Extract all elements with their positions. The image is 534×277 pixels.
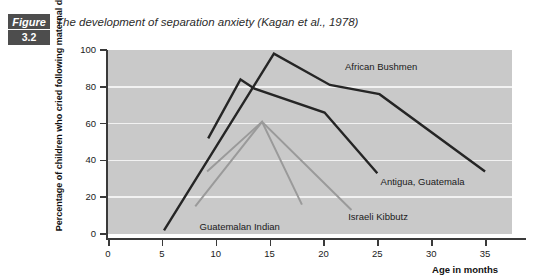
- plot-area: [108, 50, 512, 234]
- x-tick-label: 10: [203, 248, 229, 259]
- y-tick-mark: [100, 49, 107, 51]
- x-tick-label: 30: [418, 248, 444, 259]
- x-tick-mark: [485, 240, 487, 246]
- series-line: [164, 54, 485, 231]
- figure-number-label: 3.2: [8, 30, 50, 45]
- plot-wrapper: 020406080100 05101520253035 African Bush…: [96, 50, 512, 240]
- figure-badge-label: Figure: [8, 14, 50, 29]
- y-tick-label: 60: [66, 118, 96, 129]
- figure-caption-text: The development of separation anxiety (K…: [56, 16, 358, 28]
- y-tick-mark: [100, 233, 107, 235]
- x-tick-label: 20: [310, 248, 336, 259]
- y-axis-line: [106, 50, 108, 240]
- x-tick-mark: [431, 240, 433, 246]
- x-tick-mark: [270, 240, 272, 246]
- x-axis-line: [106, 238, 526, 240]
- y-tick-label: 100: [66, 44, 96, 55]
- series-label-antigua-guatemala: Antigua, Guatemala: [381, 176, 465, 187]
- series-label-israeli-kibbutz: Israeli Kibbutz: [348, 211, 408, 222]
- y-tick-mark: [100, 123, 107, 125]
- x-tick-label: 15: [257, 248, 283, 259]
- x-tick-label: 35: [472, 248, 498, 259]
- x-tick-mark: [162, 240, 164, 246]
- y-tick-mark: [100, 86, 107, 88]
- y-tick-mark: [100, 196, 107, 198]
- chart: Percentage of children who cried followi…: [0, 44, 534, 277]
- series-lines: [108, 50, 512, 234]
- x-tick-label: 0: [95, 248, 121, 259]
- y-tick-label: 80: [66, 81, 96, 92]
- series-line: [207, 122, 351, 210]
- x-tick-mark: [216, 240, 218, 246]
- series-label-guatemalan-indian: Guatemalan Indian: [200, 221, 280, 232]
- series-label-african-bushmen: African Bushmen: [345, 61, 417, 72]
- x-axis-title: Age in months: [432, 264, 498, 275]
- figure-caption-row: Figure 3.2 The development of separation…: [0, 0, 534, 44]
- y-tick-label: 40: [66, 154, 96, 165]
- y-tick-label: 20: [66, 191, 96, 202]
- y-tick-mark: [100, 160, 107, 162]
- y-axis-title: Percentage of children who cried followi…: [54, 51, 65, 231]
- x-tick-label: 5: [149, 248, 175, 259]
- figure-container: Figure 3.2 The development of separation…: [0, 0, 534, 277]
- x-tick-mark: [108, 240, 110, 246]
- x-tick-label: 25: [364, 248, 390, 259]
- y-tick-label: 0: [66, 228, 96, 239]
- x-tick-mark: [323, 240, 325, 246]
- x-tick-mark: [377, 240, 379, 246]
